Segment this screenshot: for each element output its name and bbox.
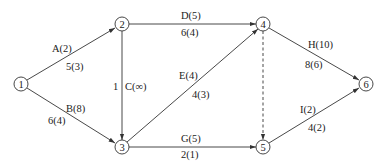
node-1: 1 [14, 77, 28, 91]
node-label: 5 [260, 142, 265, 153]
edge-label-value-e: 4(3) [192, 89, 210, 101]
edge-1-2 [27, 28, 115, 80]
node-2: 2 [115, 17, 129, 31]
edge-label-value-h: 8(6) [305, 59, 323, 71]
edge-label-activity-b: B(8) [66, 103, 86, 115]
edge-label-activity-i: I(2) [300, 104, 316, 116]
node-5: 5 [256, 140, 270, 154]
edge-label-value-g: 2(1) [181, 149, 199, 161]
edge-5-6 [269, 88, 359, 143]
node-3: 3 [115, 140, 129, 154]
edge-4-6 [269, 28, 359, 80]
edge-label-value-c: 1 [113, 81, 118, 92]
edge-label-value-b: 6(4) [48, 115, 66, 127]
node-label: 1 [18, 79, 23, 90]
edge-label-activity-c: C(∞) [125, 81, 147, 93]
edge-label-activity-g: G(5) [181, 133, 201, 145]
edge-label-value-a: 5(3) [66, 61, 84, 73]
edge-label-value-d: 6(4) [181, 27, 199, 39]
node-label: 3 [119, 142, 124, 153]
node-6: 6 [359, 77, 373, 91]
edge-label-activity-d: D(5) [181, 10, 201, 22]
edge-label-value-i: 4(2) [308, 122, 326, 134]
edge-label-activity-e: E(4) [179, 70, 198, 82]
edge-1-3 [27, 88, 115, 143]
node-label: 2 [119, 19, 124, 30]
node-label: 6 [363, 79, 368, 90]
node-4: 4 [256, 17, 270, 31]
edge-label-activity-h: H(10) [308, 39, 334, 51]
node-label: 4 [260, 19, 266, 30]
edge-label-activity-a: A(2) [52, 43, 72, 55]
network-diagram: A(2) 5(3) B(8) 6(4) C(∞) 1 D(5) 6(4) E(4… [0, 0, 385, 168]
edge-3-4 [127, 29, 258, 142]
